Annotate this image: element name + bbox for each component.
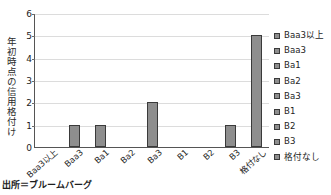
bar[interactable] <box>95 125 106 147</box>
legend-swatch-icon <box>274 154 280 160</box>
bar-series <box>35 14 269 147</box>
legend-label: Ba3 <box>284 92 301 101</box>
bar[interactable] <box>69 125 80 147</box>
bar-slot <box>165 14 191 147</box>
legend-swatch-icon <box>274 124 280 130</box>
y-axis-tick: 6 <box>17 10 32 19</box>
y-axis-title: 年初時点の信用格付け <box>1 16 16 158</box>
legend-item[interactable]: Baa3以上 <box>274 28 331 43</box>
legend-label: 格付なし <box>284 153 320 162</box>
bar[interactable] <box>251 35 262 147</box>
legend-swatch-icon <box>274 78 280 84</box>
bar[interactable] <box>147 102 158 147</box>
y-axis-tick-labels: 0123456 <box>17 14 32 148</box>
source-note: 出所＝ブルームバーグ <box>2 180 92 190</box>
legend-label: B1 <box>284 107 295 116</box>
bar-slot <box>35 14 61 147</box>
y-axis-tick: 4 <box>17 54 32 63</box>
legend-item[interactable]: Ba1 <box>274 58 331 73</box>
y-axis-tick: 3 <box>17 77 32 86</box>
bar-slot <box>243 14 269 147</box>
legend-swatch-icon <box>274 109 280 115</box>
legend-swatch-icon <box>274 33 280 39</box>
plot-area <box>34 14 269 148</box>
bar-slot <box>191 14 217 147</box>
legend-label: B2 <box>284 122 295 131</box>
legend-swatch-icon <box>274 139 280 145</box>
legend-item[interactable]: B2 <box>274 119 331 134</box>
legend-item[interactable]: Ba3 <box>274 89 331 104</box>
y-axis-tick: 1 <box>17 121 32 130</box>
bar-slot <box>61 14 87 147</box>
chart-figure: 年初時点の信用格付け 0123456 Baa3以上Baa3Ba1Ba2Ba3B1… <box>0 0 331 195</box>
legend-item[interactable]: 格付なし <box>274 150 331 165</box>
bar-slot <box>217 14 243 147</box>
chart-legend: Baa3以上Baa3Ba1Ba2Ba3B1B2B3格付なし <box>274 28 331 168</box>
legend-label: Baa3以上 <box>284 31 324 40</box>
legend-item[interactable]: B1 <box>274 104 331 119</box>
legend-swatch-icon <box>274 93 280 99</box>
legend-label: Ba1 <box>284 61 301 70</box>
legend-label: Ba2 <box>284 77 301 86</box>
y-axis-tick: 2 <box>17 99 32 108</box>
bar[interactable] <box>225 125 236 147</box>
legend-item[interactable]: B3 <box>274 134 331 149</box>
y-axis-tick: 0 <box>17 144 32 153</box>
legend-item[interactable]: Ba2 <box>274 74 331 89</box>
legend-label: Baa3 <box>284 46 306 55</box>
bar-slot <box>113 14 139 147</box>
x-axis-tick-label: 格付なし <box>217 148 268 195</box>
legend-swatch-icon <box>274 63 280 69</box>
legend-label: B3 <box>284 137 295 146</box>
legend-item[interactable]: Baa3 <box>274 43 331 58</box>
y-axis-tick: 5 <box>17 32 32 41</box>
legend-swatch-icon <box>274 48 280 54</box>
bar-slot <box>87 14 113 147</box>
bar-slot <box>139 14 165 147</box>
